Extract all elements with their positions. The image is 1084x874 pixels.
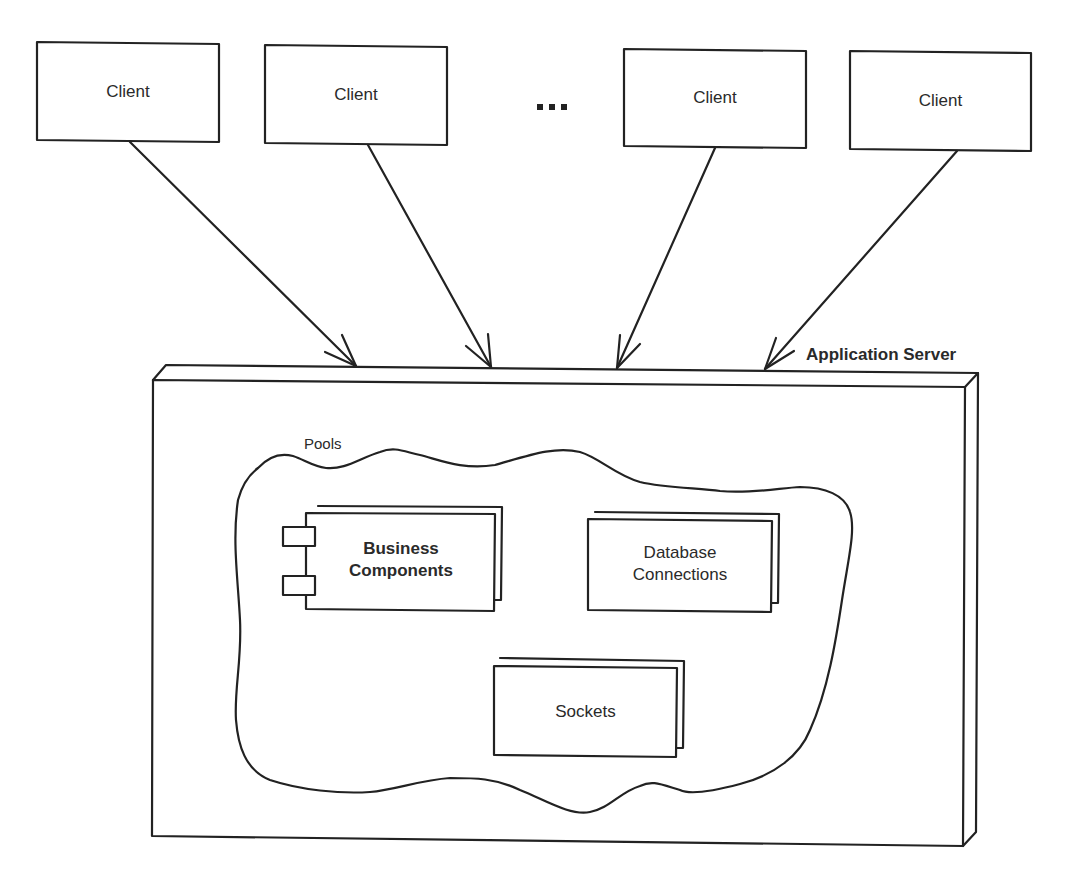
database-connections-line1: Database: [588, 542, 772, 564]
database-connections-label: Database Connections: [588, 542, 772, 586]
pools-cloud: [235, 449, 852, 812]
business-components-label: Business Components: [316, 538, 486, 582]
business-components-line2: Components: [316, 560, 486, 582]
ellipsis-dot: [549, 104, 555, 110]
pools-label: Pools: [304, 434, 342, 454]
connector-2: [368, 145, 491, 367]
client-label-3: Client: [624, 87, 806, 109]
diagram-canvas: [0, 0, 1084, 874]
connector-1: [130, 142, 356, 366]
business-components-line1: Business: [316, 538, 486, 560]
client-label-4: Client: [850, 90, 1031, 112]
ellipsis-dot: [561, 104, 567, 110]
database-connections-line2: Connections: [588, 564, 772, 586]
ellipsis-dot: [537, 104, 543, 110]
application-server-node: [152, 365, 978, 846]
application-server-label: Application Server: [806, 344, 956, 366]
client-label-1: Client: [37, 81, 219, 103]
sockets-label: Sockets: [494, 701, 677, 723]
connector-3: [617, 148, 715, 368]
connector-4: [765, 151, 957, 369]
more-clients-ellipsis: [537, 104, 567, 110]
client-label-2: Client: [265, 84, 447, 106]
